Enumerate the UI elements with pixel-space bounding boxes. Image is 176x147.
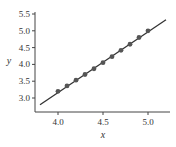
y-tick-label: 3.5: [19, 76, 31, 86]
y-axis-label: y: [6, 55, 12, 66]
data-point: [146, 28, 151, 33]
data-point: [83, 72, 88, 77]
data-point: [137, 35, 142, 40]
data-point: [101, 60, 106, 65]
plot-series: [40, 20, 166, 105]
data-point: [92, 66, 97, 71]
data-point: [119, 48, 124, 53]
y-tick-label: 5.0: [19, 26, 31, 36]
y-tick-label: 5.5: [19, 9, 31, 19]
y-tick-label: 4.5: [19, 43, 31, 53]
data-point: [56, 89, 61, 94]
data-point: [128, 42, 133, 47]
data-point: [110, 54, 115, 59]
y-tick-label: 4.0: [19, 59, 31, 69]
x-axis-ticks: 4.04.55.0: [52, 112, 154, 127]
scatter-chart: 3.03.54.04.55.05.5 4.04.55.0 x y: [0, 0, 176, 147]
x-tick-label: 4.5: [97, 117, 109, 127]
x-tick-label: 4.0: [52, 117, 64, 127]
y-axis-ticks: 3.03.54.04.55.05.5: [19, 9, 35, 103]
y-tick-label: 3.0: [19, 93, 31, 103]
x-tick-label: 5.0: [142, 117, 154, 127]
data-point: [74, 78, 79, 83]
x-axis-label: x: [100, 129, 106, 140]
data-point: [65, 84, 70, 89]
